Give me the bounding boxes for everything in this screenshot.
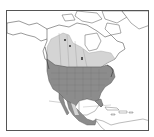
central-america [95, 119, 149, 131]
range-map [6, 10, 149, 131]
greenland [122, 11, 149, 29]
north-america-map [7, 11, 149, 131]
caribbean-islands [105, 107, 133, 115]
alaska [7, 21, 51, 41]
